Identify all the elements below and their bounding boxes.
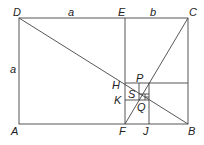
label-d: D	[13, 6, 21, 18]
label-a: A	[10, 125, 18, 137]
label-p: P	[136, 72, 144, 84]
segment-fc	[125, 18, 188, 124]
golden-rectangle-diagram: D E C A F J B H K P S Q a b a	[0, 0, 204, 145]
length-de: a	[68, 6, 74, 18]
label-j: J	[142, 125, 149, 137]
label-e: E	[118, 6, 126, 18]
length-ec: b	[150, 6, 156, 18]
label-h: H	[112, 79, 120, 91]
label-q: Q	[137, 101, 146, 113]
label-s: S	[128, 88, 136, 100]
label-k: K	[114, 94, 122, 106]
diagonal-db	[19, 18, 188, 124]
label-c: C	[189, 6, 197, 18]
length-da: a	[10, 63, 16, 75]
label-b: B	[188, 125, 195, 137]
label-f: F	[119, 125, 127, 137]
